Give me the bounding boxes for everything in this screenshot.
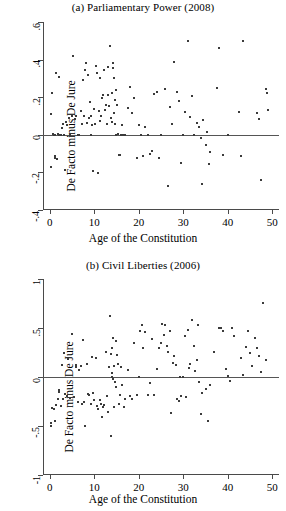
panel-a-data-point	[184, 111, 186, 113]
panel-a-data-point	[51, 92, 53, 94]
panel-b-data-point	[108, 366, 110, 368]
panel-b-data-point	[198, 381, 200, 383]
panel-a-data-point	[208, 163, 210, 165]
panel-a-data-point	[55, 72, 57, 74]
panel-a-data-point	[93, 108, 95, 110]
panel-a-data-point	[193, 134, 195, 136]
panel-a-data-point	[86, 122, 88, 124]
panel-b-data-point	[200, 413, 202, 415]
panel-b-data-point	[220, 327, 222, 329]
panel-b-data-point	[102, 406, 104, 408]
panel-a-data-point	[267, 109, 269, 111]
panel-a-data-point	[90, 134, 92, 136]
panel-b-data-point	[127, 369, 129, 371]
panel-a-data-point	[200, 137, 202, 139]
panel-a-data-point	[91, 124, 93, 126]
panel-a-data-point	[117, 133, 119, 135]
panel-a-data-point	[240, 155, 242, 157]
panel-b-data-point	[110, 435, 112, 437]
panel-b-x-tick	[139, 475, 140, 479]
panel-b-data-point	[116, 354, 118, 356]
panel-a-data-point	[169, 106, 171, 108]
panel-b-data-point	[256, 347, 258, 349]
panel-a-data-point	[50, 113, 52, 115]
panel-b-data-point	[118, 403, 120, 405]
panel-b-data-point	[193, 345, 195, 347]
panel-b-data-point	[222, 330, 224, 332]
panel-a-data-point	[206, 131, 208, 133]
panel-b-data-point	[75, 364, 77, 366]
panel-a-x-tick-label: 20	[133, 216, 144, 228]
panel-b-data-point	[90, 403, 92, 405]
panel-b-x-tick-label: 50	[267, 481, 278, 493]
panel-b-data-point	[117, 363, 119, 365]
panel-a-data-point	[100, 115, 102, 117]
panel-a-y-axis	[43, 22, 44, 210]
panel-a-data-point	[160, 134, 162, 136]
panel-b-data-point	[213, 351, 215, 353]
panel-a-data-point	[68, 117, 70, 119]
panel-a-data-point	[151, 150, 153, 152]
panel-a-data-point	[107, 66, 109, 68]
panel-b-data-point	[189, 363, 191, 365]
panel-b-data-point	[242, 374, 244, 376]
panel-b-x-axis	[43, 474, 279, 475]
panel-a-x-tick-label: 50	[267, 216, 278, 228]
panel-a-x-axis	[43, 209, 279, 210]
panel-b-data-point	[260, 371, 262, 373]
panel-a-data-point	[102, 94, 104, 96]
panel-a-x-tick	[139, 210, 140, 214]
panel-b-data-point	[58, 389, 60, 391]
panel-a-data-point	[80, 110, 82, 112]
panel-a-data-point	[216, 87, 218, 89]
panel-b-data-point	[99, 399, 101, 401]
panel-b-data-point	[175, 364, 177, 366]
panel-a-x-tick-label: 30	[178, 216, 189, 228]
panel-b-data-point	[61, 364, 63, 366]
panel-a-x-tick	[94, 210, 95, 214]
panel-b-data-point	[86, 363, 88, 365]
panel-b-data-point	[169, 330, 171, 332]
panel-a-data-point	[56, 158, 58, 160]
panel-b-data-point	[77, 401, 79, 403]
panel-b-data-point	[258, 355, 260, 357]
panel-a-data-point	[109, 45, 111, 47]
panel-a-data-point	[156, 91, 158, 93]
panel-a-data-point	[205, 144, 207, 146]
panel-a-data-point	[238, 111, 240, 113]
panel-a-data-point	[82, 79, 84, 81]
panel-b-data-point	[120, 366, 122, 368]
panel-b-data-point	[105, 351, 107, 353]
panel-b-data-point	[201, 392, 203, 394]
panel-b-data-point	[163, 334, 165, 336]
panel-b-data-point	[112, 337, 114, 339]
panel-a-data-point	[142, 155, 144, 157]
panel-b-data-point	[179, 376, 181, 378]
panel-b-data-point	[110, 353, 112, 355]
panel-a-data-point	[110, 117, 112, 119]
panel-a-data-point	[74, 118, 76, 120]
panel-a-x-tick	[228, 210, 229, 214]
panel-a-data-point	[222, 154, 224, 156]
panel-a-data-point	[189, 116, 191, 118]
scatter-figure: (a) Parliamentary Power (2008) De Facto …	[0, 0, 286, 511]
panel-b-data-point	[57, 398, 59, 400]
panel-a-data-point	[114, 123, 116, 125]
panel-b-data-point	[69, 397, 71, 399]
panel-b-data-point	[187, 329, 189, 331]
panel-a-data-point	[116, 104, 118, 106]
panel-b-data-point	[115, 340, 117, 342]
panel-b-data-point	[149, 382, 151, 384]
panel-a-data-point	[69, 134, 71, 136]
panel-parliamentary-power: (a) Parliamentary Power (2008) De Facto …	[0, 0, 286, 255]
panel-b-data-point	[50, 425, 52, 427]
panel-a-data-point	[87, 74, 89, 76]
panel-a-data-point	[66, 124, 68, 126]
panel-b-data-point	[111, 372, 113, 374]
panel-b-x-tick	[50, 475, 51, 479]
panel-b-data-point	[178, 400, 180, 402]
panel-a-data-point	[98, 110, 100, 112]
panel-b-data-point	[115, 386, 117, 388]
panel-a-data-point	[58, 76, 60, 78]
panel-a-data-point	[75, 115, 77, 117]
